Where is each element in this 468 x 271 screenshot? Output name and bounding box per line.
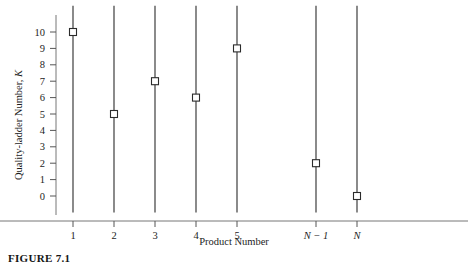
x-axis-ticks	[73, 221, 357, 227]
y-axis-tick-label: 5	[40, 109, 45, 120]
x-axis-tick-label: 2	[111, 230, 116, 241]
x-axis-group: 12345N − 1N Product Number	[0, 221, 468, 247]
y-axis-tick-label: 0	[40, 191, 45, 202]
y-axis-tick-label: 8	[40, 59, 45, 70]
data-point-marker	[152, 78, 159, 85]
data-markers	[70, 29, 361, 200]
y-axis-tick-label: 9	[40, 43, 45, 54]
data-point-marker	[313, 160, 320, 167]
figure-caption: FIGURE 7.1	[8, 252, 70, 264]
y-axis-tick-label: 10	[35, 27, 46, 38]
x-axis-tick-label: 3	[152, 230, 157, 241]
x-axis-tick-label: N	[352, 230, 361, 241]
y-axis-tick-label: 4	[40, 125, 46, 136]
data-stems	[73, 6, 357, 213]
y-axis-tick-label: 3	[40, 141, 45, 152]
y-axis-tick-label: 2	[40, 158, 45, 169]
chart-plot-area: 012345678910 Quality-ladder Number, K 12…	[0, 0, 468, 248]
data-point-marker	[234, 45, 241, 52]
y-axis-group: 012345678910 Quality-ladder Number, K	[13, 15, 56, 215]
y-axis-tick-label: 6	[40, 92, 45, 103]
data-point-marker	[111, 111, 118, 118]
quality-ladder-scatter-chart: 012345678910 Quality-ladder Number, K 12…	[0, 0, 468, 248]
y-axis-ticks	[50, 32, 56, 196]
figure-container: 012345678910 Quality-ladder Number, K 12…	[0, 0, 468, 271]
y-axis-tick-label: 7	[40, 76, 45, 87]
x-axis-tick-label: 1	[70, 230, 75, 241]
x-axis-title: Product Number	[199, 236, 269, 247]
y-axis-title: Quality-ladder Number, K	[13, 69, 24, 180]
data-point-marker	[354, 193, 361, 200]
x-axis-tick-label: N − 1	[303, 230, 329, 241]
data-point-marker	[70, 29, 77, 36]
y-axis-tick-label: 1	[40, 174, 45, 185]
y-axis-tick-labels: 012345678910	[35, 27, 46, 202]
data-point-marker	[193, 94, 200, 101]
